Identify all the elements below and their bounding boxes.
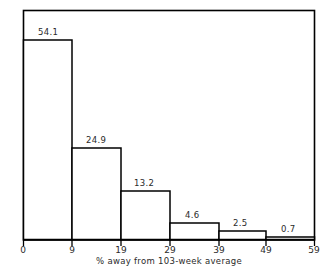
bar-value-label-29-39: 4.6 [185,210,199,220]
x-tick-label-49: 49 [260,245,271,255]
x-tick-label-29: 29 [164,245,175,255]
x-tick-label-19: 19 [115,245,126,255]
histogram-chart: % of total no. of weeks [0,0,328,275]
bar-value-label-0-9: 54.1 [38,27,58,37]
bar-39-49 [219,231,266,240]
plot-area [0,0,328,275]
x-tick-label-9: 9 [69,245,75,255]
bar-value-label-39-49: 2.5 [233,218,247,228]
x-tick-label-59: 59 [308,245,319,255]
x-tick-label-39: 39 [213,245,224,255]
x-tick-label-0: 0 [20,245,26,255]
bar-0-9 [24,40,73,240]
bar-9-19 [72,148,121,240]
x-axis-title: % away from 103-week average [23,256,315,266]
bar-29-39 [170,223,219,240]
bar-series [24,40,315,240]
bar-value-label-19-29: 13.2 [134,178,154,188]
bar-value-label-9-19: 24.9 [86,135,106,145]
bar-19-29 [121,191,170,240]
bar-value-label-49-59: 0.7 [281,224,295,234]
